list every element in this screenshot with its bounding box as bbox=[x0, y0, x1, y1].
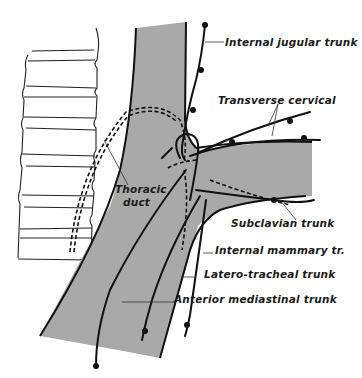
label-thoracic-duct-1: Thoracic bbox=[115, 183, 167, 195]
label-internal-mammary: Internal mammary tr. bbox=[215, 244, 345, 256]
label-thoracic-duct-2: duct bbox=[123, 196, 151, 208]
label-latero-tracheal: Latero-tracheal trunk bbox=[204, 268, 336, 280]
lymphatic-trunks-diagram: Internal jugular trunk Transverse cervic… bbox=[0, 0, 362, 378]
label-anterior-mediastinal: Anterior mediastinal trunk bbox=[173, 293, 338, 305]
vein-band bbox=[40, 22, 312, 358]
vertebral-column bbox=[18, 28, 99, 260]
label-internal-jugular-trunk: Internal jugular trunk bbox=[225, 36, 358, 48]
label-subclavian-trunk: Subclavian trunk bbox=[231, 217, 335, 229]
label-transverse-cervical: Transverse cervical bbox=[218, 94, 336, 106]
